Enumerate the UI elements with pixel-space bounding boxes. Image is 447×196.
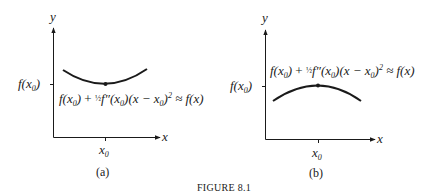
figure-caption: FIGURE 8.1 xyxy=(197,183,251,193)
panel-b-y-tick-label: f(x0) xyxy=(230,79,252,95)
panel-b-curve xyxy=(273,86,361,102)
panel-a-x-axis-label: x xyxy=(162,130,168,143)
panel-a-formula: f(x0) + ½f″(x0)(x − x0)2 ≈ f(x) xyxy=(59,92,204,108)
panel-b-y-axis-label: y xyxy=(262,11,268,24)
panel-a-curve xyxy=(63,69,147,84)
panel-b-x-axis-label: x xyxy=(377,132,383,145)
panel-a-label: (a) xyxy=(96,166,109,178)
panel-b-label: (b) xyxy=(309,167,323,179)
panel-b-point xyxy=(316,84,320,88)
panel-a-x-tick-label: x0 xyxy=(99,143,109,159)
panel-a-y-axis-label: y xyxy=(50,10,56,23)
panel-a-point xyxy=(104,82,108,86)
panel-b-x-tick-label: x0 xyxy=(312,146,322,162)
panel-b-formula: f(x0) + ½f″(x0)(x − x0)2 ≈ f(x) xyxy=(270,64,415,80)
panel-a-y-tick-label: f(x0) xyxy=(18,77,40,93)
